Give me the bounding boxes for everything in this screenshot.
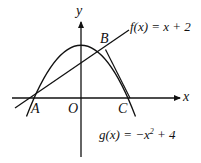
f-equation-label: f(x) = x + 2	[130, 20, 191, 33]
y-axis-label: y	[76, 4, 82, 18]
g-equation-suffix: + 4	[154, 127, 176, 142]
point-b-label: B	[100, 32, 109, 46]
g-equation-label: g(x) = −x2 + 4	[99, 128, 176, 141]
point-a-label: A	[31, 102, 40, 116]
function-diagram: y x O A B C f(x) = x + 2 g(x) = −x2 + 4	[0, 0, 201, 163]
chord-bc	[106, 50, 131, 99]
x-axis-label: x	[183, 90, 189, 104]
g-equation-prefix: g(x) = −x	[99, 127, 150, 142]
point-c-label: C	[118, 102, 127, 116]
origin-label: O	[68, 102, 78, 116]
